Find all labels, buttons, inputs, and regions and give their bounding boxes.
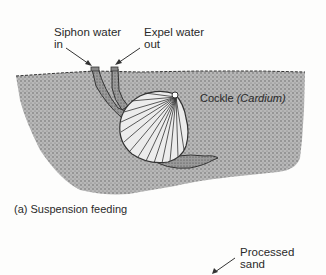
figure-caption: (a) Suspension feeding xyxy=(14,203,127,215)
siphon-water-in-label: Siphon water in xyxy=(54,26,121,50)
siphon-in-opening xyxy=(91,67,99,71)
organism-genus: (Cardium) xyxy=(237,92,286,104)
organism-common-name: Cockle xyxy=(200,92,237,104)
processed-sand-arrow xyxy=(212,258,235,274)
organism-label: Cockle (Cardium) xyxy=(200,92,286,104)
expel-water-out-label: Expel water out xyxy=(144,26,204,50)
siphon-in-arrow xyxy=(66,48,92,66)
expel-out-arrow xyxy=(115,48,140,65)
siphon-out-opening xyxy=(111,67,118,71)
processed-sand-label: Processed sand xyxy=(240,246,294,270)
suspension-feeding-diagram: Siphon water in Expel water out Cockle (… xyxy=(0,0,326,275)
